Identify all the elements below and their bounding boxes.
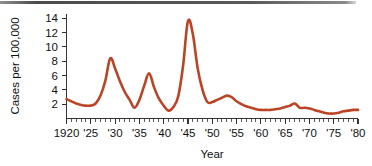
y-tick-label: 2 [52, 98, 58, 110]
series-group [67, 20, 359, 114]
x-tick-label: '45 [180, 127, 195, 139]
y-tick-label: 4 [52, 84, 59, 96]
y-tick-label: 12 [45, 27, 58, 39]
y-tick-label: 6 [52, 70, 58, 82]
y-axis-ticks [62, 18, 67, 104]
y-tick-label: 8 [52, 55, 58, 67]
y-tick-label: 10 [45, 41, 58, 53]
y-axis-group: 2468101214 Cases per 100,000 [9, 12, 67, 119]
chart-container: 2468101214 Cases per 100,000 1920'25'30'… [0, 0, 372, 166]
x-tick-label: '55 [229, 127, 244, 139]
x-axis-tick-labels: 1920'25'30'35'40'45'50'55'60'65'70'75'80 [54, 127, 366, 139]
y-axis-tick-labels: 2468101214 [45, 12, 58, 110]
x-tick-label: '40 [156, 127, 171, 139]
x-tick-label: 1920 [54, 127, 80, 139]
x-tick-label: '70 [302, 127, 317, 139]
x-tick-label: '60 [253, 127, 268, 139]
x-tick-label: '25 [83, 127, 98, 139]
x-tick-label: '65 [278, 127, 293, 139]
series-line [67, 20, 359, 114]
chart-screenshot: 2468101214 Cases per 100,000 1920'25'30'… [0, 0, 372, 166]
x-tick-label: '35 [132, 127, 147, 139]
x-tick-label: '30 [108, 127, 123, 139]
line-chart: 2468101214 Cases per 100,000 1920'25'30'… [0, 0, 372, 166]
x-axis-title: Year [200, 148, 223, 160]
x-axis-group: 1920'25'30'35'40'45'50'55'60'65'70'75'80… [54, 119, 366, 161]
x-tick-label: '75 [326, 127, 341, 139]
x-tick-label: '50 [205, 127, 220, 139]
y-tick-label: 14 [45, 12, 58, 24]
x-tick-label: '80 [351, 127, 366, 139]
y-axis-title: Cases per 100,000 [9, 17, 21, 114]
